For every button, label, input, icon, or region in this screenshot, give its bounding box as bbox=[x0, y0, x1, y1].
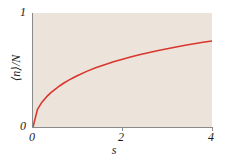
y-tick-label-1: 1 bbox=[20, 6, 26, 18]
y-axis-title: ⟨n⟩/N bbox=[10, 38, 22, 98]
figure-container: 1 0 0 2 4 s ⟨n⟩/N bbox=[0, 0, 228, 158]
x-tick-label-2: 2 bbox=[118, 131, 124, 143]
y-tick-label-0: 0 bbox=[20, 120, 26, 132]
x-tick-label-4: 4 bbox=[208, 131, 214, 143]
x-tick-label-0: 0 bbox=[29, 131, 35, 143]
data-curve bbox=[33, 13, 212, 127]
x-axis-title: s bbox=[0, 144, 228, 156]
y-axis-line bbox=[32, 13, 33, 128]
